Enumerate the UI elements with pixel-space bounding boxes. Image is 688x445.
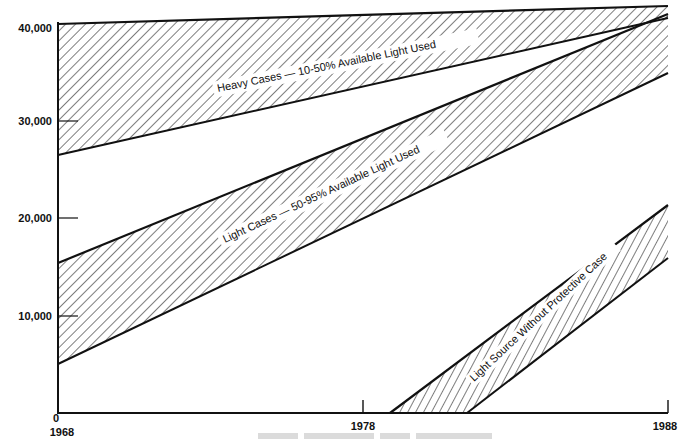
y-tick-30000: 30,000 [18,115,52,127]
x-tick-1978: 1978 [351,420,375,432]
y-tick-10000: 10,000 [18,310,52,322]
y-tick-20000: 20,000 [18,212,52,224]
x-tick-1968: 1968 [50,426,74,438]
y-tick-40000: 40,000 [18,22,52,34]
band-no-case [390,205,668,413]
x-axis: 1968 1978 1988 [50,400,677,438]
figure-caption-illegible [258,433,492,439]
chart: Heavy Cases — 10-50% Available Light Use… [0,0,688,445]
x-tick-1988: 1988 [653,420,677,432]
